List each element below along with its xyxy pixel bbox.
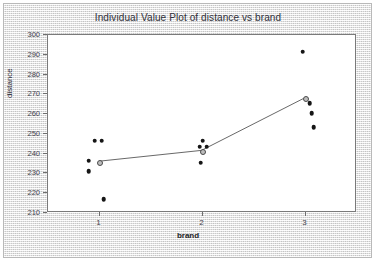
group-mean-marker	[97, 160, 103, 166]
y-axis-tick-label: 290	[27, 49, 40, 58]
data-point	[309, 111, 314, 116]
y-axis-tick-label: 210	[27, 208, 40, 217]
chart-title: Individual Value Plot of distance vs bra…	[0, 12, 376, 23]
data-point	[311, 125, 316, 130]
y-axis-tick-label: 230	[27, 168, 40, 177]
data-point	[198, 160, 203, 165]
y-axis-tick-label: 300	[27, 30, 40, 39]
y-axis-tick-label: 270	[27, 89, 40, 98]
x-axis-tick-mark	[99, 212, 100, 216]
y-axis-tick-label: 220	[27, 188, 40, 197]
y-axis-title: distance	[5, 68, 14, 98]
data-point	[86, 158, 91, 163]
x-axis-tick-label: 3	[302, 218, 306, 227]
plot-inner	[48, 35, 355, 211]
y-axis-tick-mark	[43, 212, 47, 213]
y-axis-tick-label: 240	[27, 148, 40, 157]
chart-screenshot: Individual Value Plot of distance vs bra…	[0, 0, 376, 262]
x-axis-tick-label: 2	[199, 218, 203, 227]
data-point	[204, 144, 209, 149]
group-mean-marker	[200, 149, 206, 155]
x-axis-tick-label: 1	[96, 218, 100, 227]
data-point	[99, 139, 104, 144]
data-point	[92, 139, 97, 144]
data-point	[86, 169, 91, 174]
y-axis-tick-label: 250	[27, 128, 40, 137]
data-point	[300, 50, 305, 55]
x-axis-title: brand	[0, 231, 376, 240]
data-point	[307, 101, 312, 106]
plot-area	[47, 34, 356, 212]
data-point	[200, 139, 205, 144]
y-axis-tick-label: 260	[27, 109, 40, 118]
mean-connecting-line	[48, 35, 355, 211]
y-axis-tick-label: 280	[27, 69, 40, 78]
group-mean-marker	[303, 96, 309, 102]
data-point	[101, 197, 106, 202]
x-axis-tick-mark	[305, 212, 306, 216]
x-axis-tick-mark	[202, 212, 203, 216]
